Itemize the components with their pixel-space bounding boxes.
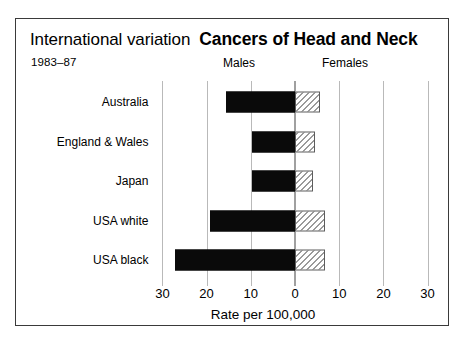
chart-header: International variationCancers of Head a… [30, 29, 418, 50]
x-axis-tick-label: 30 [155, 286, 169, 301]
bar-male [175, 250, 295, 271]
x-axis-tick-label: 20 [199, 286, 213, 301]
gridline [428, 81, 429, 286]
bar-female [295, 210, 325, 231]
x-axis: 3020100102030 Rate per 100,000 [16, 286, 448, 326]
plot-area: AustraliaEngland & WalesJapanUSA whiteUS… [16, 81, 448, 286]
gridline [339, 81, 340, 286]
x-axis-tick-label: 30 [420, 286, 434, 301]
column-heading-males: Males [223, 56, 255, 70]
category-label: Australia [0, 95, 148, 109]
x-axis-title: Rate per 100,000 [16, 307, 448, 322]
chart-title: Cancers of Head and Neck [199, 29, 417, 49]
category-label: USA white [0, 214, 148, 228]
gridline [383, 81, 384, 286]
gridline [162, 81, 163, 286]
category-label: Japan [0, 174, 148, 188]
category-label: USA black [0, 253, 148, 267]
bar-male [210, 210, 295, 231]
bar-female [295, 131, 315, 152]
x-axis-tick-label: 20 [376, 286, 390, 301]
column-heading-females: Females [322, 56, 368, 70]
chart-figure: International variationCancers of Head a… [15, 18, 449, 326]
chart-period: 1983–87 [31, 56, 76, 68]
bar-male [226, 92, 295, 113]
bar-female [295, 171, 313, 192]
bar-female [295, 250, 325, 271]
x-axis-tick-label: 10 [244, 286, 258, 301]
bar-male [252, 171, 295, 192]
bar-female [295, 92, 320, 113]
x-axis-tick-label: 10 [332, 286, 346, 301]
category-label: England & Wales [0, 135, 148, 149]
x-axis-tick-label: 0 [291, 286, 298, 301]
chart-kicker: International variation [30, 30, 190, 49]
bar-male [252, 131, 295, 152]
